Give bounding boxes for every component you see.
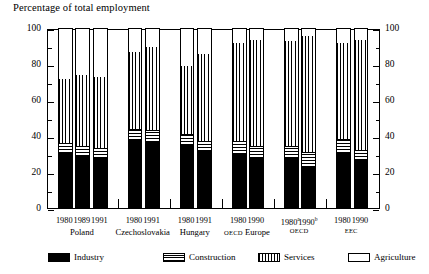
- y-axis-label-left: 40: [0, 132, 41, 142]
- segment-industry: [198, 152, 211, 207]
- y-tick-major: [48, 174, 54, 175]
- y-tick-minor: [48, 48, 52, 49]
- legend-item-services: Services: [258, 252, 315, 262]
- group-separator-tick: [326, 199, 327, 208]
- segment-construction: [198, 141, 211, 152]
- group-separator-tick: [170, 199, 171, 208]
- y-tick-minor: [376, 120, 380, 121]
- legend-item-industry: Industry: [48, 252, 104, 262]
- segment-industry: [355, 161, 368, 207]
- y-tick-major: [48, 66, 54, 67]
- bar-czechoslovakia-1980: [128, 28, 143, 208]
- y-axis-label-left: 100: [0, 24, 41, 34]
- segment-construction: [146, 130, 159, 142]
- segment-services: [302, 36, 315, 152]
- chart-legend: IndustryConstructionServicesAgriculture: [0, 252, 429, 268]
- x-axis-year-label: 1991: [138, 217, 166, 225]
- segment-industry: [302, 168, 315, 207]
- y-tick-major: [373, 210, 379, 211]
- segment-services: [250, 40, 263, 147]
- segment-construction: [250, 146, 263, 158]
- bar-oecd-1980: [284, 28, 299, 208]
- segment-construction: [233, 141, 246, 155]
- chart-page: Percentage of total employment 100806040…: [0, 0, 429, 274]
- segment-services: [285, 41, 298, 146]
- y-axis-label-right: 20: [385, 168, 395, 178]
- segment-agriculture: [94, 29, 107, 77]
- segment-construction: [302, 152, 315, 168]
- segment-services: [146, 47, 159, 131]
- segment-services: [355, 40, 368, 150]
- bar-oecd-1990: [301, 28, 316, 208]
- y-tick-major: [373, 66, 379, 67]
- segment-industry: [337, 154, 350, 207]
- segment-agriculture: [129, 29, 142, 52]
- segment-construction: [355, 150, 368, 161]
- y-axis-label-right: 80: [385, 60, 395, 70]
- segment-construction: [285, 146, 298, 158]
- segment-services: [129, 52, 142, 129]
- segment-agriculture: [233, 29, 246, 43]
- y-tick-minor: [48, 84, 52, 85]
- bar-poland-1989: [75, 28, 90, 208]
- segment-agriculture: [302, 29, 315, 36]
- segment-construction: [181, 134, 194, 146]
- segment-agriculture: [76, 29, 89, 75]
- legend-label: Services: [284, 252, 315, 262]
- segment-agriculture: [337, 29, 350, 43]
- bar-hungary-1991: [197, 28, 212, 208]
- x-axis-year-label: 1990: [242, 217, 270, 225]
- segment-agriculture: [355, 29, 368, 40]
- chart-title: Percentage of total employment: [13, 2, 150, 13]
- y-axis-label-left: 60: [0, 96, 41, 106]
- bar-hungary-1980: [180, 28, 195, 208]
- segment-agriculture: [181, 29, 194, 66]
- segment-construction: [76, 146, 89, 157]
- legend-item-construction: Construction: [163, 252, 236, 262]
- y-tick-minor: [376, 48, 380, 49]
- segment-services: [59, 79, 72, 143]
- y-axis-label-right: 40: [385, 132, 395, 142]
- segment-construction: [129, 129, 142, 141]
- x-axis-year-label: 1990b: [294, 217, 322, 227]
- segment-construction: [59, 143, 72, 154]
- legend-label: Agriculture: [374, 252, 415, 262]
- segment-services: [233, 43, 246, 141]
- bar-eec-1990: [354, 28, 369, 208]
- bar-oecd-europe-1980: [232, 28, 247, 208]
- segment-industry: [129, 141, 142, 207]
- y-tick-minor: [376, 192, 380, 193]
- y-tick-major: [48, 30, 54, 31]
- segment-agriculture: [285, 29, 298, 41]
- bar-eec-1980: [336, 28, 351, 208]
- segment-industry: [233, 155, 246, 207]
- segment-construction: [94, 148, 107, 159]
- legend-item-agriculture: Agriculture: [348, 252, 415, 262]
- bar-poland-1980: [58, 28, 73, 208]
- y-tick-minor: [48, 192, 52, 193]
- segment-industry: [250, 159, 263, 207]
- group-separator-tick: [222, 199, 223, 208]
- segment-services: [94, 77, 107, 148]
- legend-label: Construction: [189, 252, 236, 262]
- y-tick-minor: [48, 120, 52, 121]
- y-tick-minor: [48, 156, 52, 157]
- y-tick-major: [373, 30, 379, 31]
- segment-agriculture: [250, 29, 263, 40]
- y-tick-minor: [376, 156, 380, 157]
- y-axis-label-left: 80: [0, 60, 41, 70]
- segment-services: [76, 75, 89, 146]
- group-separator-tick: [118, 199, 119, 208]
- y-axis-label-right: 100: [385, 24, 399, 34]
- x-axis-year-label: 1991: [190, 217, 218, 225]
- segment-agriculture: [198, 29, 211, 54]
- y-tick-major: [373, 102, 379, 103]
- plot-area: [47, 29, 380, 209]
- segment-agriculture: [146, 29, 159, 47]
- bar-oecd-europe-1990: [249, 28, 264, 208]
- segment-industry: [59, 154, 72, 207]
- segment-industry: [285, 159, 298, 207]
- y-axis-label-left: 20: [0, 168, 41, 178]
- group-separator-tick: [274, 199, 275, 208]
- white-swatch: [348, 253, 370, 262]
